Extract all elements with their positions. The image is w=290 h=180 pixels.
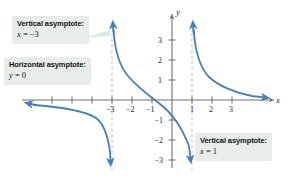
y-tick-label--1: −1: [154, 116, 163, 125]
x-axis: [22, 97, 272, 104]
x-axis-label: x: [275, 95, 280, 105]
x-tick-label--2: −2: [126, 105, 135, 114]
callout-equation-rest: = 1: [204, 146, 217, 156]
x-tick-label-3: 3: [229, 105, 233, 114]
callout-equation-rest: = −3: [21, 29, 39, 39]
callout-equation: x = −3: [17, 29, 84, 40]
callout-title: Horizontal asymptote:: [9, 60, 86, 69]
rational-function-figure: x y −3 −2 −1 1 2 3 3 2 1 −1 −2 −3 V: [0, 0, 290, 180]
callout-equation: y = 0: [9, 70, 86, 81]
x-tick-label--3: −3: [106, 105, 115, 114]
y-tick-label-2: 2: [158, 56, 162, 65]
y-axis-label: y: [175, 7, 180, 17]
y-axis: [169, 16, 176, 168]
curve-branch-right: [193, 24, 266, 98]
callout-vertical-asymptote-left: Vertical asymptote: x = −3: [12, 16, 89, 44]
y-tick-label--2: −2: [154, 136, 163, 145]
curve-branch-middle: [113, 24, 191, 160]
x-tick-label-1: 1: [190, 105, 194, 114]
callout-equation-rest: = 0: [13, 70, 26, 80]
curve-branch-left: [28, 103, 111, 163]
x-tick-label-2: 2: [209, 105, 213, 114]
callout-title: Vertical asymptote:: [17, 19, 84, 28]
x-tick-label--1: −1: [146, 105, 155, 114]
callout-leader-horizontal: [90, 76, 112, 100]
y-tick-label-3: 3: [158, 36, 162, 45]
callout-equation: x = 1: [200, 146, 267, 157]
callout-vertical-asymptote-right: Vertical asymptote: x = 1: [195, 133, 272, 161]
callout-horizontal-asymptote: Horizontal asymptote: y = 0: [4, 57, 91, 85]
callout-title: Vertical asymptote:: [200, 136, 267, 145]
y-tick-label-1: 1: [158, 76, 162, 85]
y-tick-label--3: −3: [154, 156, 163, 165]
